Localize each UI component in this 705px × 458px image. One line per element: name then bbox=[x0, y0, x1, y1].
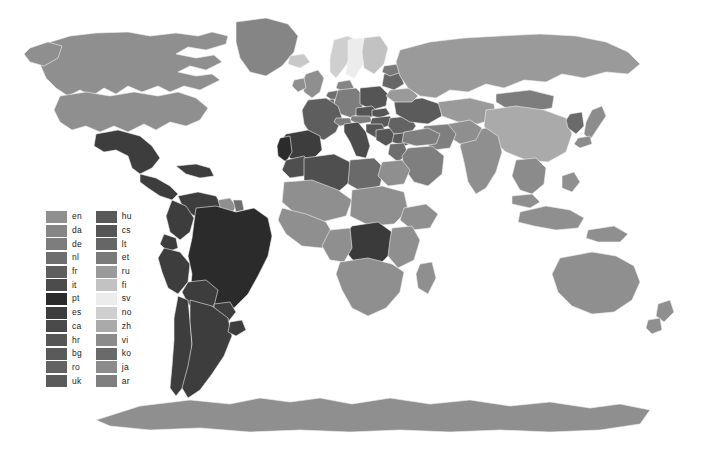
legend-swatch-pt bbox=[46, 293, 67, 305]
region-japan-south bbox=[574, 136, 592, 148]
legend-label-de: de bbox=[72, 240, 82, 249]
legend-item-ru[interactable]: ru bbox=[96, 265, 132, 279]
region-russia bbox=[396, 34, 640, 98]
legend-swatch-fr bbox=[46, 266, 67, 278]
legend-item-zh[interactable]: zh bbox=[96, 320, 132, 334]
legend-swatch-vi bbox=[96, 334, 117, 346]
region-greenland bbox=[236, 18, 298, 76]
legend-swatch-no bbox=[96, 307, 117, 319]
legend-item-et[interactable]: et bbox=[96, 251, 132, 265]
legend-label-vi: vi bbox=[122, 336, 129, 345]
legend-item-sv[interactable]: sv bbox=[96, 292, 132, 306]
legend-swatch-hu bbox=[96, 211, 117, 223]
legend-swatch-da bbox=[46, 225, 67, 237]
legend-swatch-cs bbox=[96, 225, 117, 237]
legend-swatch-fi bbox=[96, 279, 117, 291]
region-antarctica bbox=[96, 398, 650, 432]
region-japan bbox=[584, 106, 606, 140]
region-madagascar bbox=[416, 262, 436, 294]
legend-swatch-ar bbox=[96, 375, 117, 387]
legend-swatch-nl bbox=[46, 252, 67, 264]
legend-item-bg[interactable]: bg bbox=[46, 347, 82, 361]
legend-swatch-es bbox=[46, 307, 67, 319]
legend-label-ko: ko bbox=[122, 349, 131, 358]
legend-label-hu: hu bbox=[122, 212, 132, 221]
world-language-map-figure: en da de nl fr it bbox=[0, 0, 705, 458]
region-australia bbox=[552, 252, 640, 314]
legend-item-en[interactable]: en bbox=[46, 210, 82, 224]
legend-item-uk[interactable]: uk bbox=[46, 374, 82, 388]
legend-item-ko[interactable]: ko bbox=[96, 347, 132, 361]
map-legend: en da de nl fr it bbox=[46, 210, 132, 388]
region-mexico bbox=[94, 130, 160, 174]
region-saudi-arabia bbox=[402, 146, 444, 186]
legend-item-es[interactable]: es bbox=[46, 306, 82, 320]
legend-item-ja[interactable]: ja bbox=[96, 361, 132, 375]
legend-swatch-ro bbox=[46, 361, 67, 373]
legend-label-nl: nl bbox=[72, 253, 79, 262]
legend-swatch-it bbox=[46, 279, 67, 291]
region-suriname bbox=[233, 200, 244, 212]
region-sudan-chad bbox=[350, 186, 408, 226]
region-egypt bbox=[378, 160, 410, 186]
region-caribbean bbox=[176, 164, 214, 178]
legend-label-ja: ja bbox=[122, 363, 129, 372]
legend-label-cs: cs bbox=[122, 226, 131, 235]
region-southern-africa bbox=[336, 258, 404, 316]
legend-label-it: it bbox=[72, 281, 77, 290]
legend-label-fr: fr bbox=[72, 267, 78, 276]
legend-item-da[interactable]: da bbox=[46, 224, 82, 238]
legend-label-et: et bbox=[122, 253, 130, 262]
legend-swatch-en bbox=[46, 211, 67, 223]
legend-item-ca[interactable]: ca bbox=[46, 320, 82, 334]
legend-label-lt: lt bbox=[122, 240, 127, 249]
legend-item-ro[interactable]: ro bbox=[46, 361, 82, 375]
region-east-africa bbox=[388, 226, 420, 268]
legend-swatch-ja bbox=[96, 361, 117, 373]
legend-item-it[interactable]: it bbox=[46, 278, 82, 292]
legend-swatch-et bbox=[96, 252, 117, 264]
legend-swatch-zh bbox=[96, 320, 117, 332]
legend-swatch-de bbox=[46, 238, 67, 250]
legend-item-no[interactable]: no bbox=[96, 306, 132, 320]
legend-label-uk: uk bbox=[72, 377, 81, 386]
legend-item-fr[interactable]: fr bbox=[46, 265, 82, 279]
legend-swatch-ru bbox=[96, 266, 117, 278]
legend-item-nl[interactable]: nl bbox=[46, 251, 82, 265]
legend-label-ca: ca bbox=[72, 322, 81, 331]
region-usa bbox=[54, 92, 208, 132]
legend-label-ro: ro bbox=[72, 363, 80, 372]
region-new-zealand-south bbox=[646, 318, 662, 334]
legend-item-lt[interactable]: lt bbox=[96, 237, 132, 251]
legend-item-cs[interactable]: cs bbox=[96, 224, 132, 238]
legend-item-fi[interactable]: fi bbox=[96, 278, 132, 292]
legend-label-es: es bbox=[72, 308, 81, 317]
region-iceland bbox=[288, 54, 310, 68]
legend-column-1: en da de nl fr it bbox=[46, 210, 82, 388]
legend-swatch-hr bbox=[46, 334, 67, 346]
legend-column-2: hu cs lt et ru fi bbox=[96, 210, 132, 388]
legend-swatch-uk bbox=[46, 375, 67, 387]
legend-item-pt[interactable]: pt bbox=[46, 292, 82, 306]
legend-label-ru: ru bbox=[122, 267, 130, 276]
legend-item-hu[interactable]: hu bbox=[96, 210, 132, 224]
legend-label-pt: pt bbox=[72, 294, 80, 303]
legend-item-de[interactable]: de bbox=[46, 237, 82, 251]
region-uruguay bbox=[228, 320, 246, 336]
legend-item-hr[interactable]: hr bbox=[46, 333, 82, 347]
region-indonesia bbox=[518, 206, 584, 230]
region-horn-of-africa bbox=[400, 204, 438, 230]
legend-swatch-lt bbox=[96, 238, 117, 250]
legend-item-vi[interactable]: vi bbox=[96, 333, 132, 347]
region-central-america bbox=[140, 174, 178, 200]
legend-label-da: da bbox=[72, 226, 82, 235]
legend-swatch-sv bbox=[96, 293, 117, 305]
region-canada bbox=[40, 32, 228, 96]
legend-swatch-bg bbox=[46, 348, 67, 360]
legend-swatch-ko bbox=[96, 348, 117, 360]
legend-item-ar[interactable]: ar bbox=[96, 374, 132, 388]
legend-label-sv: sv bbox=[122, 294, 131, 303]
region-malaysia bbox=[512, 194, 540, 208]
region-southeast-asia bbox=[512, 158, 546, 194]
legend-label-bg: bg bbox=[72, 349, 82, 358]
